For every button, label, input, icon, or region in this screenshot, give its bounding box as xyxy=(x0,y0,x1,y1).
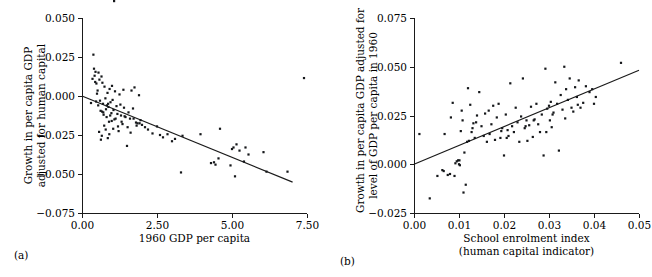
scatter-point xyxy=(130,89,132,91)
scatter-point xyxy=(127,111,129,113)
scatter-point xyxy=(144,126,146,128)
scatter-point xyxy=(579,107,581,109)
regression-line xyxy=(414,70,639,164)
scatter-point xyxy=(106,92,108,94)
scatter-point xyxy=(533,119,535,121)
x-axis-title-a-line1: 1960 GDP per capita xyxy=(82,232,307,245)
scatter-point xyxy=(471,131,473,133)
x-tick-label: 0.02 xyxy=(493,219,516,231)
scatter-point xyxy=(506,137,508,139)
scatter-point xyxy=(94,81,96,83)
scatter-point xyxy=(101,111,103,113)
scatter-point xyxy=(123,107,125,109)
scatter-point xyxy=(115,105,117,107)
scatter-point xyxy=(108,121,110,123)
scatter-point xyxy=(572,111,574,113)
scatter-points xyxy=(418,62,622,200)
y-axis-title-a-line2: adjusted for human capital xyxy=(35,18,48,213)
scatter-point xyxy=(108,133,110,135)
scatter-point xyxy=(507,129,509,131)
scatter-point xyxy=(127,126,129,128)
scatter-point xyxy=(578,79,580,81)
scatter-point xyxy=(117,125,119,127)
scatter-point xyxy=(458,159,460,161)
scatter-point xyxy=(97,104,99,106)
scatter-point xyxy=(132,107,134,109)
scatter-point xyxy=(483,135,485,137)
scatter-point xyxy=(544,68,546,70)
scatter-point xyxy=(93,68,95,70)
scatter-point xyxy=(469,104,471,106)
scatter-point xyxy=(532,136,534,138)
scatter-point xyxy=(554,81,556,83)
scatter-panel-b: −0.0250.0000.0250.0500.0750.000.010.020.… xyxy=(326,0,652,277)
scatter-point xyxy=(102,103,104,105)
scatter-point xyxy=(103,114,105,116)
scatter-point xyxy=(105,108,107,110)
scatter-point xyxy=(620,62,622,64)
scatter-point xyxy=(480,125,482,127)
scatter-panel-a: −0.075−0.050−0.0250.0000.0250.0500.002.5… xyxy=(0,0,326,277)
scatter-point xyxy=(109,88,111,90)
x-tick-label: 0.00 xyxy=(403,219,426,231)
scatter-point xyxy=(286,171,288,173)
scatter-point xyxy=(486,141,488,143)
scatter-point xyxy=(122,89,124,91)
scatter-point xyxy=(98,79,100,81)
scatter-point xyxy=(199,133,201,135)
scatter-point xyxy=(436,175,438,177)
x-tick-label: 0.01 xyxy=(448,219,471,231)
y-tick-label: 0.025 xyxy=(377,110,407,122)
scatter-point xyxy=(232,146,234,148)
scatter-point xyxy=(526,140,528,142)
scatter-point xyxy=(136,125,138,127)
scatter-point xyxy=(520,115,522,117)
scatter-point xyxy=(111,120,113,122)
scatter-point xyxy=(505,113,507,115)
scatter-point xyxy=(219,128,221,130)
scatter-point xyxy=(478,91,480,93)
scatter-point xyxy=(539,131,541,133)
scatter-point xyxy=(548,105,550,107)
scatter-point xyxy=(460,130,462,132)
scatter-point xyxy=(496,116,498,118)
y-axis-title-b-line2: level of GDP per capita in 1960 xyxy=(367,18,380,213)
scatter-point xyxy=(551,126,553,128)
scatter-point xyxy=(238,150,240,152)
scatter-point xyxy=(94,75,96,77)
scatter-point xyxy=(103,125,105,127)
scatter-point xyxy=(109,101,111,103)
scatter-point xyxy=(518,141,520,143)
scatter-point xyxy=(101,135,103,137)
scatter-point xyxy=(166,133,168,135)
scatter-point xyxy=(106,116,108,118)
scatter-point xyxy=(576,96,578,98)
scatter-point xyxy=(100,139,102,141)
scatter-point xyxy=(585,85,587,87)
y-tick-label: 0.000 xyxy=(377,158,407,170)
scatter-point xyxy=(475,121,477,123)
scatter-point xyxy=(162,136,164,138)
scatter-point xyxy=(552,113,554,115)
scatter-point xyxy=(507,135,509,137)
scatter-point xyxy=(97,89,99,91)
scatter-point xyxy=(454,162,456,164)
scatter-point xyxy=(115,118,117,120)
scatter-point xyxy=(549,119,551,121)
scatter-point xyxy=(95,100,97,102)
scatter-point xyxy=(96,93,98,95)
scatter-point xyxy=(543,154,545,156)
scatter-point xyxy=(488,110,490,112)
scatter-point xyxy=(591,88,593,90)
scatter-point xyxy=(550,101,552,103)
y-tick-label: 0.050 xyxy=(45,12,75,24)
scatter-point xyxy=(501,127,503,129)
scatter-point xyxy=(110,112,112,114)
regression-line xyxy=(82,96,293,182)
scatter-point xyxy=(133,118,135,120)
scatter-point xyxy=(174,138,176,140)
y-tick-label: 0.050 xyxy=(377,61,407,73)
x-tick-label: 2.50 xyxy=(146,219,169,231)
x-axis-title-b-line1: School enrolment index xyxy=(414,232,639,245)
scatter-point xyxy=(472,122,474,124)
